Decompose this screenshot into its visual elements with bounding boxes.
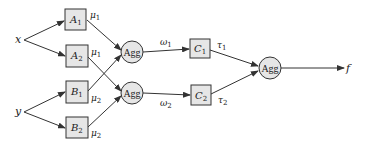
mu-label-b2: μ2 xyxy=(91,128,101,140)
box-a2: A2 xyxy=(66,45,88,67)
edge-y-b2 xyxy=(24,112,65,128)
svg-text:Agg: Agg xyxy=(261,63,278,74)
svg-text:Agg: Agg xyxy=(123,47,140,58)
input-y-label: y xyxy=(14,105,22,118)
omega-label-1: ω1 xyxy=(160,37,172,49)
box-b1: B1 xyxy=(66,81,88,103)
tau-label-1: τ1 xyxy=(217,40,226,52)
output-f-label: f xyxy=(345,62,352,75)
mu-label-b1: μ2 xyxy=(91,93,101,105)
mu-edges xyxy=(87,20,121,127)
edge-y-b1 xyxy=(24,92,65,112)
omega-label-2: ω2 xyxy=(160,98,172,110)
edge-agg1-c1 xyxy=(143,49,189,52)
input-x-label: x xyxy=(15,33,22,46)
edge-c1-agg3 xyxy=(210,50,258,66)
svg-text:Agg: Agg xyxy=(123,88,140,99)
tau-label-2: τ2 xyxy=(218,95,227,107)
agg-node-1: Agg xyxy=(121,41,143,63)
edge-a1-agg1 xyxy=(87,20,121,50)
agg-node-2: Agg xyxy=(121,82,143,104)
aggregation-diagram: x y A1 μ1 A2 μ1 B1 μ2 B2 μ2 Agg Agg ω1 ω… xyxy=(0,0,365,150)
edge-x-a2 xyxy=(24,40,65,56)
input-edges xyxy=(24,21,65,128)
tau-edges xyxy=(210,50,258,94)
agg-node-final: Agg xyxy=(259,57,281,79)
box-b2: B2 xyxy=(66,117,88,138)
edge-x-a1 xyxy=(24,21,64,40)
edge-agg2-c2 xyxy=(143,93,190,95)
mu-label-a2: μ1 xyxy=(91,47,101,59)
mu-label-a1: μ1 xyxy=(90,10,100,22)
box-a1: A1 xyxy=(65,9,86,30)
box-c2: C2 xyxy=(191,85,211,105)
omega-edges xyxy=(143,49,190,95)
box-c1: C1 xyxy=(190,39,210,58)
edge-c2-agg3 xyxy=(211,71,258,94)
